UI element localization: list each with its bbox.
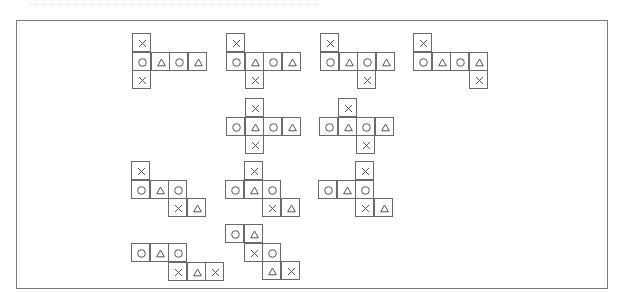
triangle-icon (249, 185, 260, 196)
circle-icon (136, 248, 147, 259)
cross-icon (325, 38, 336, 49)
cross-icon (137, 38, 148, 49)
net-face (356, 135, 375, 154)
net-face (376, 52, 395, 71)
net-face (355, 161, 374, 180)
net-face (262, 261, 281, 280)
net-face (355, 198, 374, 217)
net-face (245, 70, 264, 89)
net-face (168, 198, 187, 217)
circle-icon (361, 122, 372, 133)
net-face (245, 117, 264, 136)
cross-icon (210, 267, 221, 278)
net-face (151, 52, 170, 71)
net-face (338, 117, 357, 136)
net-face (469, 70, 488, 89)
cross-icon (231, 38, 242, 49)
net-face (169, 52, 188, 71)
net-face (337, 180, 356, 199)
net-face (262, 243, 281, 262)
cross-icon (418, 38, 429, 49)
circle-icon (268, 122, 279, 133)
cross-icon (267, 203, 278, 214)
net-face (413, 52, 432, 71)
net-face (132, 52, 151, 71)
net-face (320, 33, 339, 52)
cross-icon (250, 140, 261, 151)
net-face (375, 117, 394, 136)
cross-icon (250, 103, 261, 114)
net-face (225, 180, 244, 199)
net-face (226, 52, 245, 71)
net-face (262, 180, 281, 199)
cross-icon (250, 75, 261, 86)
net-face (244, 224, 263, 243)
circle-icon (230, 185, 241, 196)
circle-icon (268, 57, 279, 68)
net-face (188, 52, 207, 71)
net-face (132, 33, 151, 52)
net-face (150, 180, 169, 199)
net-face (150, 243, 169, 262)
circle-icon (418, 57, 429, 68)
net-face (187, 198, 206, 217)
net-face (318, 180, 337, 199)
circle-icon (173, 185, 184, 196)
circle-icon (230, 229, 241, 240)
net-face (131, 243, 150, 262)
triangle-icon (193, 57, 204, 68)
net-face (263, 117, 282, 136)
cross-icon (361, 140, 372, 151)
net-face (357, 52, 376, 71)
circle-icon (360, 185, 371, 196)
net-face (374, 198, 393, 217)
triangle-icon (267, 266, 278, 277)
triangle-icon (437, 57, 448, 68)
net-face (244, 243, 263, 262)
cross-icon (360, 166, 371, 177)
triangle-icon (287, 57, 298, 68)
net-face (225, 224, 244, 243)
net-face (432, 52, 451, 71)
triangle-icon (380, 122, 391, 133)
circle-icon (323, 185, 334, 196)
triangle-icon (344, 57, 355, 68)
net-face (244, 161, 263, 180)
net-face (168, 262, 187, 281)
net-face (357, 70, 376, 89)
triangle-icon (342, 185, 353, 196)
net-face (168, 243, 187, 262)
triangle-icon (156, 57, 167, 68)
net-face (226, 117, 245, 136)
net-face (339, 52, 358, 71)
triangle-icon (192, 267, 203, 278)
circle-icon (362, 57, 373, 68)
circle-icon (267, 248, 278, 259)
net-face (132, 70, 151, 89)
triangle-icon (249, 229, 260, 240)
cross-icon (362, 75, 373, 86)
net-face (282, 117, 301, 136)
cross-icon (474, 75, 485, 86)
circle-icon (231, 122, 242, 133)
net-face (131, 161, 150, 180)
net-face (282, 52, 301, 71)
net-face (263, 52, 282, 71)
net-face (319, 117, 338, 136)
circle-icon (173, 248, 184, 259)
figure-frame (16, 20, 608, 289)
triangle-icon (250, 57, 261, 68)
cross-icon (249, 166, 260, 177)
net-face (226, 33, 245, 52)
circle-icon (455, 57, 466, 68)
net-face (469, 52, 488, 71)
cross-icon (249, 248, 260, 259)
net-face (320, 52, 339, 71)
cross-icon (286, 266, 297, 277)
net-face (131, 180, 150, 199)
net-face (244, 180, 263, 199)
triangle-icon (286, 203, 297, 214)
net-face (450, 52, 469, 71)
cross-icon (360, 203, 371, 214)
triangle-icon (287, 122, 298, 133)
